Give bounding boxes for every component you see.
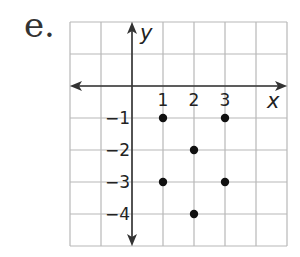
- data-point: [159, 178, 167, 186]
- y-tick-label: −2: [105, 140, 130, 160]
- y-tick-label: −1: [105, 108, 130, 128]
- y-axis-label: y: [139, 21, 153, 45]
- y-tick-label: −4: [105, 204, 130, 224]
- grid-lines: [70, 22, 287, 246]
- data-point: [221, 178, 229, 186]
- data-point: [159, 114, 167, 122]
- x-axis-label: x: [266, 89, 280, 113]
- x-tick-label: 2: [189, 90, 200, 110]
- y-tick-label: −3: [105, 172, 130, 192]
- data-point: [190, 146, 198, 154]
- x-tick-label: 3: [220, 90, 231, 110]
- coordinate-graph: xy123−1−2−3−4: [0, 0, 300, 257]
- data-point: [221, 114, 229, 122]
- x-tick-label: 1: [158, 90, 169, 110]
- axes: [70, 22, 287, 246]
- data-point: [190, 210, 198, 218]
- tick-labels: xy123−1−2−3−4: [105, 21, 280, 224]
